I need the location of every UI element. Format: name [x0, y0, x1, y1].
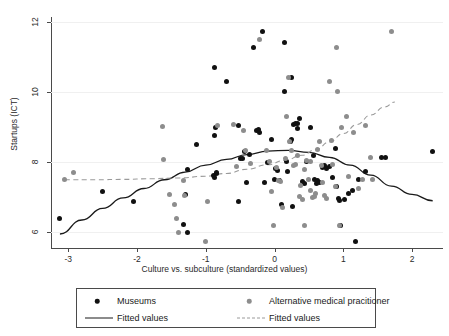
- data-point: [350, 188, 355, 193]
- legend-entry[interactable]: Alternative medical pracitioner: [237, 292, 377, 310]
- y-tick-label: 10: [29, 86, 41, 98]
- x-tick-mark: [343, 248, 344, 252]
- data-point: [247, 152, 252, 157]
- data-point: [308, 125, 313, 130]
- x-tick-mark: [137, 248, 138, 252]
- plot-area: 681012 -3-2-1012: [51, 17, 443, 248]
- data-point: [308, 159, 313, 164]
- data-point: [282, 89, 287, 94]
- data-point: [71, 170, 76, 175]
- data-point: [342, 197, 347, 202]
- data-point: [389, 29, 394, 34]
- data-point: [161, 157, 166, 162]
- legend-marker-dot-icon: [95, 299, 100, 304]
- legend-entry[interactable]: Fitted values: [85, 309, 235, 327]
- legend-marker-dashed-line-icon: [237, 318, 265, 319]
- data-point: [317, 139, 322, 144]
- data-point: [185, 167, 190, 172]
- data-point: [257, 37, 262, 42]
- data-point: [370, 177, 375, 182]
- data-point: [236, 123, 241, 128]
- legend-entry[interactable]: Museums: [85, 292, 235, 310]
- x-tick-label: -1: [202, 254, 210, 264]
- data-point: [368, 155, 373, 160]
- legend-label: Museums: [117, 296, 156, 306]
- data-point: [334, 45, 339, 50]
- chart-legend: MuseumsAlternative medical pracitionerFi…: [76, 288, 376, 328]
- data-point: [333, 184, 338, 189]
- data-point: [315, 147, 320, 152]
- data-point: [224, 79, 229, 84]
- data-point: [282, 40, 287, 45]
- data-point: [269, 137, 274, 142]
- data-point: [280, 205, 285, 210]
- data-point: [313, 191, 318, 196]
- x-tick-label: 1: [341, 254, 346, 264]
- data-point: [356, 186, 361, 191]
- data-point: [100, 189, 105, 194]
- y-tick-label-text: 12: [30, 18, 40, 27]
- data-point: [212, 133, 217, 138]
- data-point: [176, 230, 181, 235]
- y-axis-label: Startups (ICT): [9, 97, 19, 150]
- x-tick-label: 0: [272, 254, 277, 264]
- data-point: [267, 159, 272, 164]
- y-tick-label: 6: [29, 226, 41, 238]
- y-tick-label-text: 10: [30, 88, 40, 97]
- data-point: [295, 121, 300, 126]
- data-point: [300, 197, 305, 202]
- x-axis-label: Culture vs. subculture (standardized val…: [0, 264, 449, 274]
- y-tick-label-text: 6: [30, 230, 40, 235]
- data-point: [244, 180, 249, 185]
- x-tick-label: 2: [410, 254, 415, 264]
- y-tick-label-text: 8: [30, 160, 40, 165]
- y-tick-label: 12: [29, 16, 41, 28]
- data-point: [286, 75, 291, 80]
- data-point: [290, 204, 295, 209]
- fitted-curve-museums: [60, 150, 433, 234]
- data-point: [311, 153, 316, 158]
- data-point: [330, 175, 335, 180]
- x-tick-label: -2: [133, 254, 141, 264]
- data-point: [181, 178, 186, 183]
- data-point: [293, 162, 298, 167]
- x-tick-mark: [412, 248, 413, 252]
- data-point: [181, 222, 186, 227]
- y-tick-label: 8: [29, 156, 41, 168]
- data-point: [269, 189, 274, 194]
- legend-label: Alternative medical pracitioner: [269, 296, 390, 306]
- x-tick-label: -3: [64, 254, 72, 264]
- x-tick-mark: [275, 248, 276, 252]
- data-point: [260, 29, 265, 34]
- data-point: [287, 139, 292, 144]
- data-point: [240, 156, 245, 161]
- legend-entry[interactable]: Fitted values: [237, 309, 377, 327]
- data-point: [363, 169, 368, 174]
- fitted-curves: [51, 17, 443, 248]
- x-tick-mark: [68, 248, 69, 252]
- x-axis-line: [51, 248, 443, 249]
- data-point: [283, 156, 288, 161]
- x-tick-mark: [206, 248, 207, 252]
- data-point: [215, 123, 220, 128]
- scatter-chart-figure: Startups (ICT) 681012 -3-2-1012 Culture …: [0, 0, 449, 336]
- data-point: [185, 230, 190, 235]
- legend-label: Fitted values: [117, 313, 168, 323]
- data-point: [248, 161, 253, 166]
- legend-label: Fitted values: [269, 313, 320, 323]
- legend-marker-dot-icon: [247, 299, 252, 304]
- data-point: [308, 188, 313, 193]
- data-point: [257, 130, 262, 135]
- data-point: [194, 142, 199, 147]
- data-point: [182, 193, 187, 198]
- legend-marker-solid-line-icon: [85, 318, 113, 319]
- data-point: [160, 124, 165, 129]
- data-point: [262, 180, 267, 185]
- data-point: [264, 148, 269, 153]
